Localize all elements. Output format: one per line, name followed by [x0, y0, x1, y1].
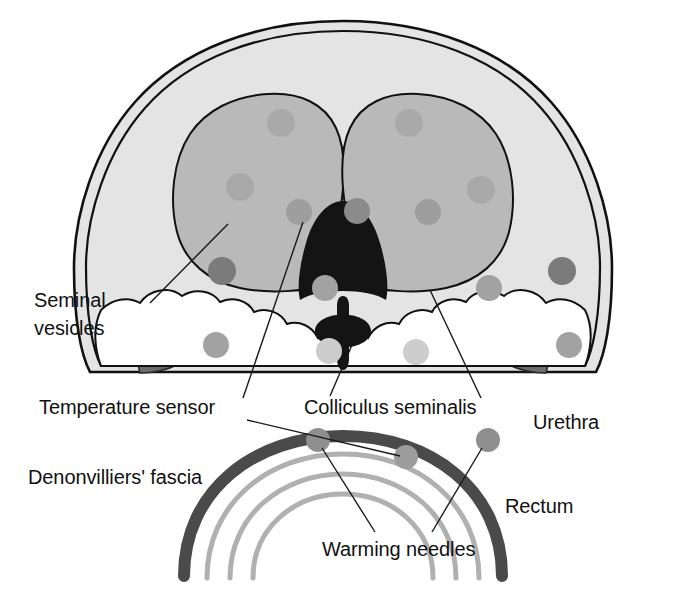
needle-dot [394, 445, 418, 469]
needle-dot [395, 109, 423, 137]
needle-dot [306, 428, 330, 452]
needle-dot [226, 173, 254, 201]
needle-dot [476, 428, 500, 452]
label-seminal-vesicles-line2: vesicles [34, 317, 104, 339]
needle-dot [403, 339, 429, 365]
needle-dot [344, 198, 370, 224]
needle-dot [203, 332, 229, 358]
label-urethra: Urethra [533, 411, 600, 433]
needle-dot [286, 199, 312, 225]
label-denonvilliers-fascia: Denonvilliers' fascia [28, 466, 203, 488]
needle-dot [208, 257, 236, 285]
label-seminal-vesicles-line1: Seminal [34, 289, 106, 311]
label-rectum: Rectum [505, 495, 573, 517]
needle-dot [415, 199, 441, 225]
needle-dot [316, 338, 342, 364]
needle-dot [476, 275, 502, 301]
label-warming-needles: Warming needles [322, 538, 475, 560]
needle-dot [312, 275, 338, 301]
label-temperature-sensor: Temperature sensor [39, 396, 216, 418]
label-colliculus-seminalis: Colliculus seminalis [304, 396, 477, 418]
prostate-cross-section-diagram: Seminal vesicles Temperature sensor Deno… [0, 0, 687, 598]
needle-dot [267, 109, 295, 137]
needle-dot [548, 257, 576, 285]
needle-dot [556, 332, 582, 358]
needle-dot [467, 176, 495, 204]
